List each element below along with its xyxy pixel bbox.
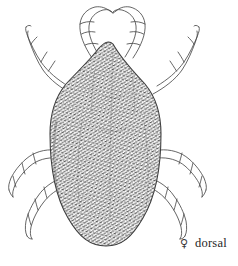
tick-dorsal-illustration [0, 0, 238, 266]
leg-2-left [26, 25, 72, 94]
idiosoma [50, 42, 172, 246]
view-label: dorsal [195, 237, 227, 250]
female-symbol-icon: ♀ [180, 238, 188, 249]
leg-3-right [158, 150, 206, 197]
leg-1-right [113, 7, 145, 58]
figure-caption: ♀ dorsal [180, 237, 227, 250]
leg-3-left [9, 150, 57, 197]
figure-root: ♀ dorsal [0, 0, 238, 266]
leg-2-right [153, 25, 199, 94]
